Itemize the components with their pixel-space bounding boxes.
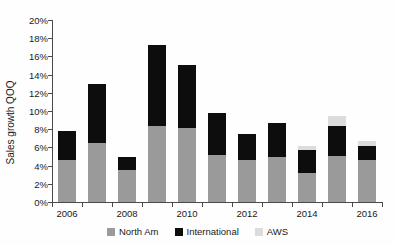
bar-segment-international [328, 126, 346, 156]
x-axis-tick-mark [172, 203, 173, 207]
y-axis-tick-label: 20% [29, 15, 48, 26]
bar-2010[interactable] [178, 65, 196, 202]
plot-area [52, 20, 382, 202]
bar-segment-international [88, 84, 106, 143]
x-axis-tick-mark [382, 203, 383, 207]
y-axis-tick-label: 16% [29, 51, 48, 62]
x-axis-tick-labels: 200620082010201220142016 [52, 208, 383, 222]
bar-segment-international [148, 45, 166, 126]
x-axis-tick-mark [322, 203, 323, 207]
bar-2007[interactable] [88, 84, 106, 202]
y-axis-tick-label: 14% [29, 69, 48, 80]
x-axis-tick-mark [142, 203, 143, 207]
y-axis-tick-mark [48, 75, 52, 76]
bar-segment-north-am [268, 157, 286, 203]
bar-segment-aws [328, 116, 346, 125]
x-axis-tick-mark [232, 203, 233, 207]
bar-segment-international [178, 65, 196, 129]
x-axis-tick-mark [352, 203, 353, 207]
bar-segment-north-am [178, 128, 196, 202]
legend-label: North Am [119, 226, 159, 237]
bar-2013[interactable] [268, 123, 286, 202]
legend-item-international[interactable]: International [175, 226, 239, 237]
y-axis-tick-label: 4% [34, 160, 48, 171]
x-axis-tick-mark [52, 203, 53, 207]
x-axis-tick-mark [262, 203, 263, 207]
y-axis-tick-mark [48, 129, 52, 130]
x-axis-tick-mark [82, 203, 83, 207]
y-axis-tick-mark [48, 147, 52, 148]
bar-2009[interactable] [148, 45, 166, 202]
y-axis-tick-label: 2% [34, 178, 48, 189]
bar-segment-north-am [118, 170, 136, 202]
legend-swatch-icon [175, 228, 183, 236]
legend-label: International [187, 226, 239, 237]
y-axis-tick-mark [48, 56, 52, 57]
legend-label: AWS [267, 226, 288, 237]
legend-item-north-am[interactable]: North Am [107, 226, 159, 237]
y-axis-tick-label: 18% [29, 33, 48, 44]
chart-legend: North AmInternationalAWS [0, 226, 395, 237]
bar-2014[interactable] [298, 146, 316, 202]
y-axis-tick-label: 8% [34, 124, 48, 135]
legend-item-aws[interactable]: AWS [255, 226, 288, 237]
x-axis-tick-label: 2010 [176, 208, 197, 219]
bar-segment-north-am [148, 126, 166, 202]
y-axis-tick-mark [48, 20, 52, 21]
bar-segment-international [298, 150, 316, 173]
bar-segment-international [58, 131, 76, 160]
y-axis-tick-mark [48, 166, 52, 167]
x-axis-tick-label: 2016 [356, 208, 377, 219]
x-axis-tick-label: 2008 [116, 208, 137, 219]
y-axis-tick-label: 12% [29, 87, 48, 98]
x-axis-tick-label: 2014 [296, 208, 317, 219]
legend-swatch-icon [107, 228, 115, 236]
x-axis-tick-mark [292, 203, 293, 207]
bar-segment-north-am [238, 160, 256, 202]
bar-2006[interactable] [58, 131, 76, 202]
bar-2012[interactable] [238, 134, 256, 202]
bar-segment-international [238, 134, 256, 160]
bar-segment-north-am [358, 160, 376, 202]
bar-2011[interactable] [208, 113, 226, 202]
y-axis-tick-mark [48, 111, 52, 112]
y-axis-tick-mark [48, 184, 52, 185]
bar-segment-international [358, 146, 376, 161]
bar-segment-international [208, 113, 226, 155]
x-axis-tick-label: 2012 [236, 208, 257, 219]
bar-segment-north-am [208, 155, 226, 202]
y-axis-tick-mark [48, 38, 52, 39]
bar-segment-north-am [58, 160, 76, 202]
stacked-bar-chart: Sales growth QOQ 0%2%4%6%8%10%12%14%16%1… [0, 0, 395, 245]
bar-2016[interactable] [358, 141, 376, 202]
legend-swatch-icon [255, 228, 263, 236]
x-axis-tick-mark [112, 203, 113, 207]
y-axis-tick-label: 6% [34, 142, 48, 153]
y-axis-tick-mark [48, 202, 52, 203]
bar-segment-international [268, 123, 286, 157]
y-axis-tick-label: 0% [34, 197, 48, 208]
y-axis-tick-mark [48, 93, 52, 94]
bar-2015[interactable] [328, 116, 346, 202]
x-axis-tick-mark [202, 203, 203, 207]
bar-2008[interactable] [118, 157, 136, 203]
bar-segment-north-am [298, 173, 316, 202]
bar-segment-north-am [88, 143, 106, 202]
y-axis-tick-labels: 0%2%4%6%8%10%12%14%16%18%20% [14, 20, 48, 202]
bar-segment-international [118, 157, 136, 171]
y-axis-tick-label: 10% [29, 106, 48, 117]
x-axis-tick-label: 2006 [56, 208, 77, 219]
bar-segment-north-am [328, 156, 346, 202]
